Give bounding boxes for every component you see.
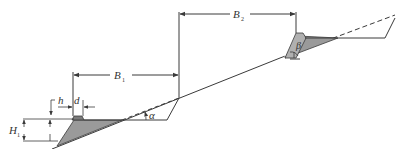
svg-text:d: d: [74, 94, 80, 106]
svg-text:h: h: [58, 94, 64, 106]
b2-dimension: B 2: [180, 8, 295, 22]
svg-text:B: B: [114, 69, 121, 81]
svg-text:2: 2: [241, 16, 244, 22]
svg-text:1: 1: [17, 132, 20, 138]
svg-text:α: α: [149, 109, 155, 121]
svg-text:B: B: [233, 8, 240, 20]
b1-dimension: B 1: [74, 69, 178, 83]
upper-terrace: [285, 18, 395, 59]
ground-slope-line: [52, 15, 395, 149]
lower-fill-wedge: [57, 120, 122, 146]
svg-text:1: 1: [122, 77, 125, 83]
svg-text:β: β: [295, 40, 301, 51]
slope-terrace-diagram: B 1 B 2 h d H 1 α β: [0, 0, 408, 149]
